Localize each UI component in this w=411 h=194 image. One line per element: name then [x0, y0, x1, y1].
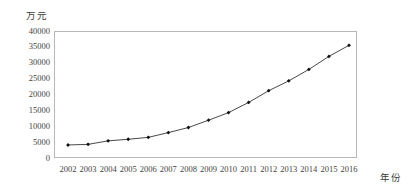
- x-axis-tick-labels: 2002200320042005200620072008200920102011…: [0, 0, 411, 194]
- line-chart: 万元 年份 0500010000150002000025000300003500…: [0, 0, 411, 194]
- x-axis-tick-label: 2016: [334, 165, 364, 174]
